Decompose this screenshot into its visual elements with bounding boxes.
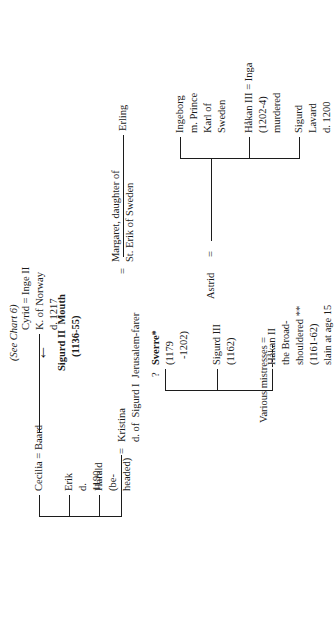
sverre-dates-1: (1179 [164,341,176,365]
cecilia-name: Cecilia = Baard [33,425,45,491]
hakan-ii-line-5: slain at age 15 [322,305,334,365]
sverre-branch-line [165,369,166,391]
cecilia-descent-line [39,334,40,432]
hakan-iii-branch-line [249,137,250,159]
hakan-ii-line-1: Håkan II [266,328,278,365]
erling-descent-line [123,135,124,257]
harald-note-1: (be- [107,474,119,491]
sigurd-iii-line-1: Sigurd III [211,324,223,365]
sverre-children-spine [180,158,300,159]
kristina-detail: d. of Sigurd I Jerusalem-farer [130,313,142,442]
sigurd-lavard-line-3: d. 1200 [321,102,333,134]
see-chart-note: (See Chart 6) [8,304,20,361]
margaret-line-2: St. Erik of Sweden [124,183,136,262]
astrid-descent-line [211,158,212,241]
hakan-ii-line-2: the Broad- [280,320,292,365]
hakan-iii-line-3: murdered [271,93,283,133]
sverre-uncertain-mark: ? [150,372,162,377]
erik-note-1: d. [77,483,89,491]
harald-note-2: headed) [121,458,133,491]
cecilia-branch-line [39,495,40,517]
mistresses-children-spine [165,390,273,391]
kristina-children-spine [39,516,122,517]
left-arrow-icon: ← [32,344,49,361]
ingeborg-branch-line [180,137,181,159]
cyrid-line-2: K. of Norway [34,272,46,330]
hakan-iii-line-1: Håkan III = Inga [243,63,255,133]
cyrid-line-3: d. 1217 [48,299,60,331]
sverre-name: Sverre* [150,330,162,365]
ingeborg-line-2: m. Prince [188,93,200,133]
root-person-dates: (1136-55) [70,316,82,357]
harald-branch-line [99,495,100,517]
sigurd-iii-branch-line [217,369,218,391]
erling-name: Erling [117,105,129,131]
hakan-ii-line-4: (1161-62) [308,323,320,365]
erik-branch-line [69,495,70,517]
sigurd-iii-line-2: (1162) [225,337,237,365]
sigurd-lavard-line-2: Lavard [307,103,319,133]
cyrid-line-1: Cyrid = Inge II [20,267,32,330]
ingeborg-line-3: Karl of [202,103,214,133]
sigurd-lavard-line-1: Sigurd [293,105,305,133]
astrid-name: Astrid [205,273,217,299]
erik-note-2: 1190 [91,470,103,491]
kristina-marriage-mark: = [116,448,128,454]
hakan-ii-line-3: shouldered ** [294,306,306,365]
astrid-marriage-mark: = [205,251,217,257]
ingeborg-line-1: Ingeborg [174,95,186,133]
margaret-line-1: Margaret, daughter of [110,170,122,262]
sverre-dates-2: -1202) [178,331,190,359]
erik-name: Erik [63,473,75,491]
hakan-iii-line-2: (1202-4) [257,96,269,133]
hakan-ii-branch-line [272,369,273,391]
margaret-marriage-mark: = [117,268,129,274]
sigurd-lavard-branch-line [299,137,300,159]
kristina-name: Kristina [116,408,128,442]
ingeborg-line-4: Sweden [216,100,228,133]
